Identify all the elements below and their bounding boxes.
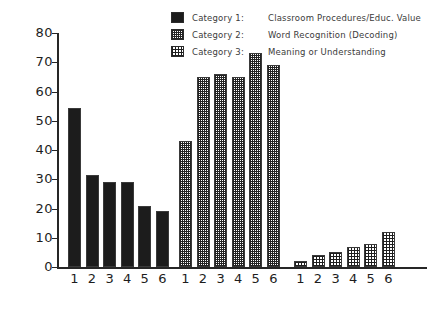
x-tick-label: 3 bbox=[211, 271, 230, 286]
x-tick-label: 4 bbox=[344, 271, 363, 286]
bar-category1-grade-5 bbox=[138, 206, 151, 267]
x-tick-label: 6 bbox=[264, 271, 283, 286]
bars-layer bbox=[57, 33, 427, 267]
legend-swatch-category1-icon bbox=[171, 12, 184, 23]
bar-category2-grade-5 bbox=[249, 53, 262, 267]
y-tick-label: 0 bbox=[44, 259, 53, 274]
bar-category1-grade-2 bbox=[86, 175, 99, 267]
legend-label-category1: Category 1: bbox=[192, 13, 268, 23]
x-tick-label: 1 bbox=[291, 271, 310, 286]
x-tick-label: 6 bbox=[153, 271, 172, 286]
bar-category3-grade-6 bbox=[382, 232, 395, 267]
legend-item-category1: Category 1: Classroom Procedures/Educ. V… bbox=[171, 10, 426, 25]
x-tick-label: 5 bbox=[246, 271, 265, 286]
bar-category3-grade-1 bbox=[294, 261, 307, 267]
y-tick-label: 10 bbox=[35, 230, 53, 245]
x-tick-label: 2 bbox=[83, 271, 102, 286]
legend-desc-category1: Classroom Procedures/Educ. Value bbox=[268, 13, 421, 23]
x-tick-label: 5 bbox=[361, 271, 380, 286]
x-tick-label: 4 bbox=[118, 271, 137, 286]
x-tick-label: 1 bbox=[176, 271, 195, 286]
bar-category2-grade-6 bbox=[267, 65, 280, 267]
bar-chart: Category 1: Classroom Procedures/Educ. V… bbox=[0, 0, 432, 314]
y-tick-label: 70 bbox=[35, 54, 53, 69]
x-axis-line bbox=[57, 267, 427, 269]
x-tick-label: 2 bbox=[309, 271, 328, 286]
x-tick-label: 5 bbox=[135, 271, 154, 286]
y-tick-label: 80 bbox=[35, 25, 53, 40]
bar-category2-grade-4 bbox=[232, 77, 245, 267]
bar-category3-grade-3 bbox=[329, 252, 342, 267]
bar-category3-grade-5 bbox=[364, 244, 377, 267]
bar-category2-grade-3 bbox=[214, 74, 227, 267]
y-tick-label: 20 bbox=[35, 201, 53, 216]
bar-category2-grade-2 bbox=[197, 77, 210, 267]
bar-category3-grade-2 bbox=[312, 255, 325, 267]
bar-category1-grade-3 bbox=[103, 182, 116, 267]
y-tick-label: 30 bbox=[35, 171, 53, 186]
bar-category3-grade-4 bbox=[347, 247, 360, 267]
bar-category1-grade-1 bbox=[68, 108, 81, 267]
x-tick-label: 3 bbox=[326, 271, 345, 286]
bar-category1-grade-4 bbox=[121, 182, 134, 267]
y-tick-label: 40 bbox=[35, 142, 53, 157]
plot-area: 01020304050607080 123456123456123456 Gra… bbox=[57, 33, 427, 267]
y-tick-label: 50 bbox=[35, 113, 53, 128]
x-tick-label: 3 bbox=[100, 271, 119, 286]
y-tick-label: 60 bbox=[35, 84, 53, 99]
x-tick-label: 4 bbox=[229, 271, 248, 286]
x-tick-label: 6 bbox=[379, 271, 398, 286]
x-tick-label: 1 bbox=[65, 271, 84, 286]
bar-category1-grade-6 bbox=[156, 211, 169, 267]
bar-category2-grade-1 bbox=[179, 141, 192, 267]
x-tick-label: 2 bbox=[194, 271, 213, 286]
